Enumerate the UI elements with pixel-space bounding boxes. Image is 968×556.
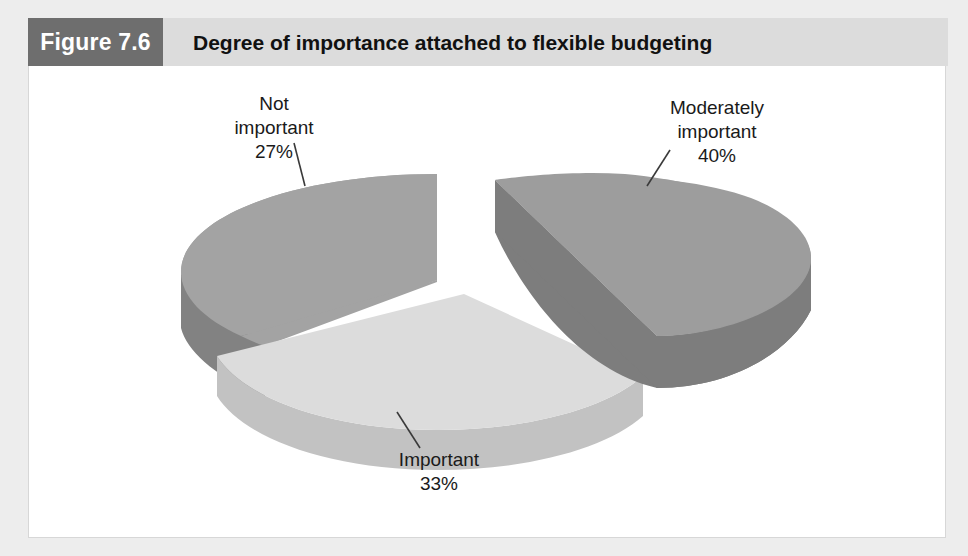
figure-header: Figure 7.6 Degree of importance attached… — [28, 18, 948, 66]
figure-title: Degree of importance attached to flexibl… — [193, 32, 712, 53]
figure-number-block: Figure 7.6 — [28, 18, 163, 66]
pie-label-important: Important 33% — [329, 448, 549, 496]
pie-label-not-important: Not important 27% — [184, 92, 364, 164]
figure-number-label: Figure 7.6 — [40, 31, 151, 54]
figure-container: Figure 7.6 Degree of importance attached… — [0, 0, 968, 556]
pie-label-moderately-important: Moderately important 40% — [607, 96, 827, 168]
chart-panel: Not important 27% Moderately important 4… — [28, 66, 946, 538]
